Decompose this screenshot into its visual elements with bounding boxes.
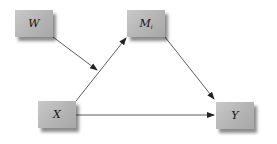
edge-w-to-path xyxy=(53,37,97,70)
edge-m-to-y xyxy=(165,37,214,99)
node-m-subscript: i xyxy=(151,23,153,30)
node-m-label: Mi xyxy=(139,17,152,30)
node-m: Mi xyxy=(127,10,165,37)
node-y-label: Y xyxy=(231,109,238,122)
edge-x-to-m xyxy=(76,38,126,101)
node-w-label: W xyxy=(28,17,39,30)
node-w: W xyxy=(15,10,53,37)
node-x-label: X xyxy=(53,108,61,121)
path-diagram: W Mi X Y xyxy=(0,0,277,144)
node-x: X xyxy=(38,101,76,128)
node-y: Y xyxy=(216,102,254,129)
